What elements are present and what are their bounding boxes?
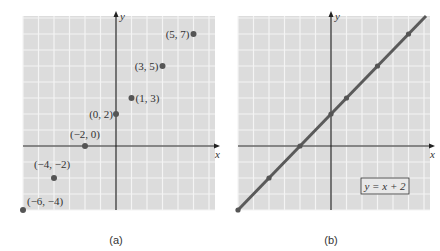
data-point <box>160 63 166 69</box>
line-point <box>406 31 411 36</box>
line-point <box>235 207 240 212</box>
point-label: (0, 2) <box>89 108 113 121</box>
line-point <box>344 95 349 100</box>
line-point <box>297 143 302 148</box>
y-axis-arrow-icon <box>114 11 119 17</box>
line-point <box>266 175 271 180</box>
x-axis-label: x <box>214 148 220 160</box>
panel-a-scatter: xy(a)(−6, −4)(−4, −2)(−2, 0)(0, 2)(1, 3)… <box>20 10 220 246</box>
panel-b-line: xy(b)y = x + 2 <box>235 10 435 246</box>
point-label: (1, 3) <box>136 92 160 105</box>
x-axis-label: x <box>429 148 435 160</box>
y-axis-label: y <box>334 10 340 22</box>
y-axis-label: y <box>119 10 125 22</box>
panel-caption: (b) <box>324 234 337 246</box>
line-point <box>328 111 333 116</box>
y-axis-arrow-icon <box>329 11 334 17</box>
point-label: (−6, −4) <box>27 195 64 208</box>
data-point <box>20 207 26 213</box>
line-point <box>375 63 380 68</box>
point-label: (3, 5) <box>135 60 159 73</box>
equation-label: y = x + 2 <box>363 180 406 192</box>
data-point <box>51 175 57 181</box>
data-point <box>191 31 197 37</box>
point-label: (−2, 0) <box>70 128 100 141</box>
panel-caption: (a) <box>109 234 122 246</box>
point-label: (−4, −2) <box>34 158 71 171</box>
figure: xy(a)(−6, −4)(−4, −2)(−2, 0)(0, 2)(1, 3)… <box>0 0 440 251</box>
point-label: (5, 7) <box>166 28 190 41</box>
data-point <box>82 143 88 149</box>
data-point <box>129 95 135 101</box>
grid-background <box>23 16 215 210</box>
data-point <box>113 111 119 117</box>
